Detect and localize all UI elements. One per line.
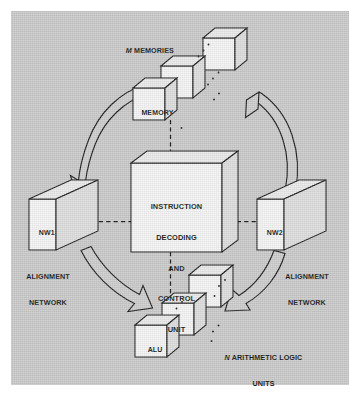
nw1-caption: ALIGNMENT NETWORK bbox=[13, 256, 83, 325]
nw2-caption-line-2: NETWORK bbox=[272, 299, 342, 308]
memories-label-rest: MEMORIES bbox=[132, 46, 174, 55]
memories-label: M MEMORIES bbox=[104, 38, 174, 64]
nw2-caption: ALIGNMENT NETWORK bbox=[272, 256, 342, 325]
control-unit-line-1: INSTRUCTION bbox=[131, 202, 222, 212]
control-unit-label: INSTRUCTION DECODING AND CONTROL UNIT bbox=[131, 182, 222, 355]
nw1-caption-line-1: ALIGNMENT bbox=[13, 273, 83, 282]
alus-label-line-1: N ARITHMETIC LOGIC bbox=[211, 354, 316, 363]
alus-label-rest: ARITHMETIC LOGIC bbox=[230, 353, 303, 362]
alu-cube-label: ALU bbox=[135, 337, 167, 363]
nw2-caption-line-1: ALIGNMENT bbox=[272, 273, 342, 282]
arrow-nw2-to-memories bbox=[246, 92, 298, 191]
alus-label-line-2: UNITS bbox=[211, 380, 316, 389]
memory-cube-label: MEMORY bbox=[133, 100, 165, 126]
control-unit-line-4: CONTROL bbox=[131, 294, 222, 304]
memory-cube-3 bbox=[203, 28, 247, 70]
control-unit-line-2: DECODING bbox=[131, 233, 222, 243]
control-unit-line-5: UNIT bbox=[131, 325, 222, 335]
nw2-box-label: NW2 bbox=[257, 220, 284, 246]
control-unit-line-3: AND bbox=[131, 264, 222, 274]
nw1-caption-line-2: NETWORK bbox=[13, 299, 83, 308]
nw1-box-label: NW1 bbox=[29, 220, 56, 246]
alus-label: N ARITHMETIC LOGIC UNITS bbox=[211, 337, 316, 406]
figure-container: .ln { stroke:#1a1a1a; stroke-width:1.05;… bbox=[0, 0, 360, 409]
